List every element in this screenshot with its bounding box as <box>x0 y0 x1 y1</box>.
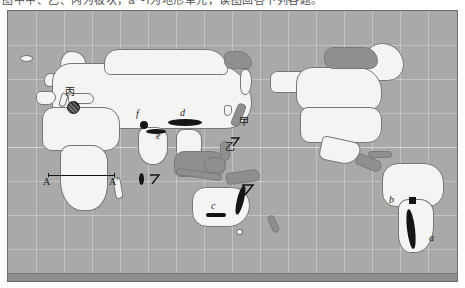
landmass-antarctic-edge <box>7 273 458 282</box>
landmass-canadian-arctic <box>324 47 378 69</box>
marker-indochina <box>139 173 144 185</box>
label-a: a <box>429 233 434 243</box>
marker-arc-se-asia <box>149 171 161 183</box>
label-bing: 丙 <box>65 87 75 97</box>
label-e: e <box>156 131 160 141</box>
hook-glyph-icon <box>149 173 161 185</box>
figure-caption: 图中甲、乙、丙为板块，a～f为地形单元，读图回答下列各题。 <box>2 0 323 7</box>
marker-mongolia-d <box>168 119 202 126</box>
label-d: d <box>180 108 185 118</box>
hook-glyph-icon <box>241 183 255 197</box>
marker-brazil-dot <box>409 197 416 204</box>
figure-caption-strip: 图中甲、乙、丙为板块，a～f为地形单元，读图回答下列各题。 <box>0 0 465 8</box>
landmass-tasmania <box>236 229 243 235</box>
cross-section-line <box>48 175 114 176</box>
landmass-south-america-south <box>398 199 434 253</box>
landmass-siberia-north <box>104 49 228 75</box>
marker-arc-coral <box>241 183 255 197</box>
landmass-east-siberia-shelf <box>224 51 252 69</box>
marker-alps-ring <box>67 101 80 114</box>
label-f: f <box>136 109 139 119</box>
label-b: b <box>389 195 394 205</box>
landmass-iberia <box>36 91 56 105</box>
landmass-usa <box>300 107 382 143</box>
landmass-canada <box>296 67 382 111</box>
landmass-caribbean <box>368 151 392 158</box>
label-c: c <box>211 201 215 211</box>
label-jia: 甲 <box>239 117 249 127</box>
marker-pamir-f <box>140 121 148 129</box>
landmass-iceland <box>20 55 33 62</box>
figure-root: 图中甲、乙、丙为板块，a～f为地形单元，读图回答下列各题。 <box>0 0 465 288</box>
cross-section-label-end: A′ <box>109 177 118 187</box>
cross-section-label-start: A <box>43 177 50 187</box>
marker-australia-c <box>206 213 226 217</box>
landmass-africa-south <box>60 145 108 211</box>
landmass-korea <box>224 105 232 116</box>
label-yi: 乙 <box>225 142 235 152</box>
world-map: A A′ f e d 甲 乙 丙 c b a <box>7 10 458 282</box>
